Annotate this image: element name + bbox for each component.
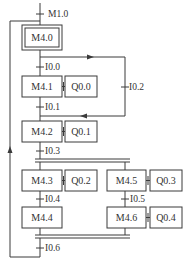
action-q0-2: Q0.2 bbox=[65, 170, 97, 191]
sfc-diagram: M1.0 M4.0 I0.2 I0.0 M4.1 Q0.0 I0.1 M4.2 … bbox=[0, 0, 185, 262]
arrow-right-icon bbox=[87, 55, 94, 60]
step-m4-4: M4.4 bbox=[22, 207, 62, 228]
action-label: Q0.4 bbox=[156, 212, 176, 223]
step-m4-0: M4.0 bbox=[22, 25, 62, 50]
action-q0-4: Q0.4 bbox=[150, 207, 182, 228]
step-label: M4.2 bbox=[31, 126, 52, 137]
transition-label-i0-1: I0.1 bbox=[45, 102, 60, 112]
action-label: Q0.0 bbox=[71, 81, 91, 92]
transition-label-i0-4: I0.4 bbox=[45, 194, 60, 204]
transition-label-m1-0: M1.0 bbox=[48, 9, 69, 19]
transition-label-i0-0: I0.0 bbox=[45, 62, 60, 72]
action-label: Q0.1 bbox=[71, 126, 91, 137]
step-m4-1: M4.1 bbox=[22, 76, 62, 97]
step-m4-2: M4.2 bbox=[22, 121, 62, 142]
arrow-left-icon bbox=[80, 114, 87, 119]
step-m4-5: M4.5 bbox=[107, 170, 146, 191]
action-q0-1: Q0.1 bbox=[65, 121, 97, 142]
step-label: M4.4 bbox=[31, 212, 52, 223]
action-q0-3: Q0.3 bbox=[150, 170, 182, 191]
arrow-up-icon bbox=[8, 146, 13, 153]
action-q0-0: Q0.0 bbox=[65, 76, 97, 97]
step-label: M4.0 bbox=[31, 32, 52, 43]
step-label: M4.1 bbox=[31, 81, 52, 92]
transition-label-i0-6: I0.6 bbox=[45, 243, 60, 253]
transition-label-i0-5: I0.5 bbox=[130, 194, 145, 204]
step-label: M4.3 bbox=[31, 175, 52, 186]
action-label: Q0.2 bbox=[71, 175, 91, 186]
step-label: M4.6 bbox=[116, 212, 137, 223]
step-m4-3: M4.3 bbox=[22, 170, 62, 191]
step-label: M4.5 bbox=[116, 175, 137, 186]
transition-label-i0-3: I0.3 bbox=[45, 146, 60, 156]
step-m4-6: M4.6 bbox=[107, 207, 146, 228]
transition-label-i0-2: I0.2 bbox=[129, 82, 144, 92]
action-label: Q0.3 bbox=[156, 175, 176, 186]
